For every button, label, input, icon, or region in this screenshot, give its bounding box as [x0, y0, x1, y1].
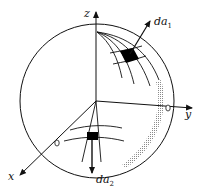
da2-label-main: da	[96, 173, 110, 186]
x-axis-intercept-marker	[55, 140, 59, 146]
normal-arrow-da1	[130, 21, 150, 54]
y-axis	[96, 101, 192, 108]
da2-label-subscript: 2	[110, 180, 114, 188]
shaded-band	[122, 80, 164, 168]
z-axis-label: z	[83, 7, 90, 20]
area-element-da2	[87, 132, 98, 140]
y-axis-label: y	[184, 108, 192, 121]
y-axis-intercept-marker	[166, 105, 170, 111]
da2-label: da2	[96, 173, 114, 188]
x-axis-label: x	[8, 170, 15, 183]
da1-label-subscript: 1	[168, 22, 172, 30]
sphere-diagram: z y x da1 da2	[0, 0, 206, 193]
da1-label-main: da	[154, 15, 168, 28]
da1-label: da1	[154, 15, 172, 30]
